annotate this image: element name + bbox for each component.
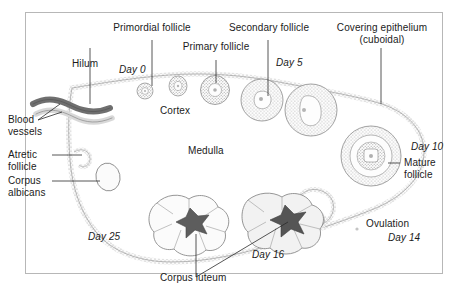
primary-follicle-artwork [201, 76, 230, 105]
day-marker-0: Day 0 [119, 64, 146, 75]
label-corpus-albicans: Corpus albicans [8, 175, 46, 198]
mature-follicle-artwork [341, 126, 401, 186]
secondary-follicle-artwork [241, 79, 283, 121]
figure-canvas: Primordial follicle Primary follicle Sec… [0, 0, 468, 297]
label-hilum: Hilum [72, 58, 98, 70]
day-marker-10: Day 10 [411, 141, 443, 152]
label-ovulation: Ovulation [366, 218, 409, 230]
label-secondary-follicle: Secondary follicle [213, 22, 325, 34]
label-medulla: Medulla [188, 145, 224, 157]
label-corpus-luteum: Corpus luteum [160, 272, 226, 284]
label-cortex: Cortex [160, 105, 190, 117]
corpus-luteum-day25-artwork [149, 195, 229, 256]
label-primary-follicle: Primary follicle [164, 41, 268, 53]
antral-follicle-artwork [285, 84, 337, 136]
day-marker-5: Day 5 [276, 57, 303, 68]
label-mature-follicle: Mature follicle [404, 157, 436, 180]
label-blood-vessels: Blood vessels [8, 114, 42, 137]
day-marker-14: Day 14 [388, 232, 420, 243]
day-marker-25: Day 25 [88, 231, 120, 242]
label-atretic-follicle: Atretic follicle [8, 149, 37, 172]
label-covering-epithelium: Covering epithelium (cuboidal) [324, 22, 440, 45]
primordial-follicle-artwork [137, 83, 153, 99]
label-primordial-follicle: Primordial follicle [97, 22, 207, 34]
primary-follicle-small-artwork [169, 76, 187, 96]
day-marker-16: Day 16 [252, 249, 284, 260]
